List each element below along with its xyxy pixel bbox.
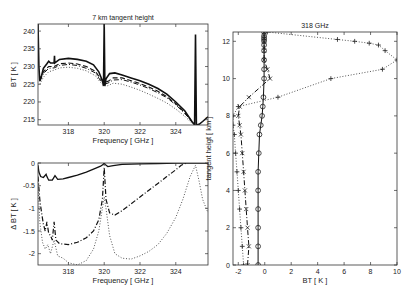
y-tick-label: 225 xyxy=(23,81,35,88)
bt-spectrum-plot: 3183203223242152202252302352407 km tange… xyxy=(9,14,208,145)
plus-marker xyxy=(235,169,240,174)
y-tick-label: -1.5 xyxy=(23,228,35,235)
x-tick-label: 10 xyxy=(393,268,401,275)
plus-marker xyxy=(239,225,244,230)
x-tick-label: 324 xyxy=(170,268,182,275)
y-tick-label: 4 xyxy=(226,187,230,194)
x-tick-label: -2 xyxy=(235,268,241,275)
x-tick-label: 318 xyxy=(63,128,75,135)
x-axis-label: Frequency [ GHz ] xyxy=(93,276,154,285)
series-group xyxy=(38,163,208,265)
bt-vs-tangent-height-plot: -20246810024681012318 GHzBT [ K ]tangent… xyxy=(204,22,401,285)
y-tick-label: 230 xyxy=(23,63,35,70)
x-tick-label: 0 xyxy=(263,268,267,275)
x-tick-label: 320 xyxy=(98,128,110,135)
plus-marker xyxy=(240,244,245,249)
series-group xyxy=(231,30,400,268)
plus-marker xyxy=(237,207,242,212)
x-tick-label: 6 xyxy=(342,268,346,275)
plus-marker xyxy=(335,37,340,42)
y-tick-label: 240 xyxy=(23,28,35,35)
y-tick-label: 220 xyxy=(23,98,35,105)
y-tick-label: 0 xyxy=(31,160,35,167)
y-tick-label: 235 xyxy=(23,45,35,52)
x-tick-label: 324 xyxy=(170,128,182,135)
plus-marker xyxy=(236,104,241,109)
y-tick-label: 215 xyxy=(23,116,35,123)
x-tick-label: 2 xyxy=(289,268,293,275)
chart-title: 318 GHz xyxy=(301,22,329,29)
plus-marker xyxy=(236,188,241,193)
x-axis-label: Frequency [ GHz ] xyxy=(93,136,154,145)
y-tick-label: -2 xyxy=(29,250,35,257)
y-tick-label: 10 xyxy=(222,75,230,82)
x-tick-label: 320 xyxy=(98,268,110,275)
plus-marker xyxy=(380,67,385,72)
figure: 3183203223242152202252302352407 km tange… xyxy=(0,0,411,293)
plus-marker xyxy=(352,39,357,44)
x-axis-label: BT [ K ] xyxy=(303,276,328,285)
y-axis-label: Δ BT [ K ] xyxy=(9,198,18,230)
y-axis-label: BT [ K ] xyxy=(9,62,18,87)
x-tick-label: 322 xyxy=(134,268,146,275)
y-tick-label: 6 xyxy=(226,150,230,157)
y-tick-label: -0.5 xyxy=(23,182,35,189)
plus-marker xyxy=(367,41,372,46)
series-dotted xyxy=(38,165,208,265)
delta-bt-spectrum-plot: 3183203223240-0.5-1-1.5-2Frequency [ GHz… xyxy=(9,160,208,286)
plus-marker xyxy=(276,95,281,100)
series-dashed xyxy=(40,63,192,122)
chart-title: 7 km tangent height xyxy=(92,14,154,22)
y-tick-label: 12 xyxy=(222,38,230,45)
x-marker xyxy=(247,95,251,99)
y-axis-label: tangent heigt [ km ] xyxy=(204,117,213,181)
plus-marker xyxy=(328,76,333,81)
series-solid xyxy=(38,163,208,180)
y-tick-label: -1 xyxy=(29,205,35,212)
y-tick-label: 0 xyxy=(226,262,230,269)
y-tick-label: 2 xyxy=(226,224,230,231)
x-tick-label: 8 xyxy=(369,268,373,275)
x-tick-label: 4 xyxy=(316,268,320,275)
x-tick-label: 322 xyxy=(134,128,146,135)
y-tick-label: 8 xyxy=(226,112,230,119)
x-tick-label: 318 xyxy=(63,268,75,275)
series-group xyxy=(38,24,208,125)
series-dashdot xyxy=(38,163,187,245)
x-marker xyxy=(246,226,250,230)
